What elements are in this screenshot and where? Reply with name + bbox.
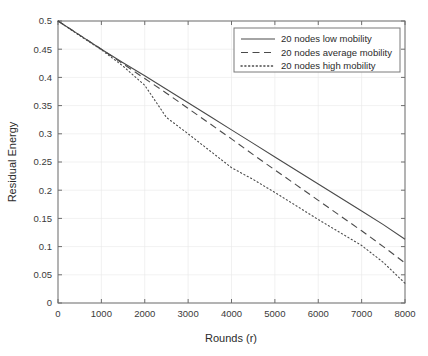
legend-label-0: 20 nodes low mobility: [281, 33, 372, 44]
x-tick-label: 2000: [134, 308, 155, 319]
x-tick-label: 5000: [264, 308, 285, 319]
y-tick-label: 0.05: [34, 269, 53, 280]
x-axis-title: Rounds (r): [205, 332, 257, 344]
x-tick-label: 4000: [221, 308, 242, 319]
y-axis-title: Residual Energy: [6, 121, 18, 202]
x-tick-label: 6000: [308, 308, 329, 319]
y-tick-label: 0.25: [34, 156, 53, 167]
x-tick-label: 0: [55, 308, 60, 319]
y-tick-label: 0.4: [39, 72, 52, 83]
y-tick-label: 0.5: [39, 15, 52, 26]
y-tick-label: 0.35: [34, 100, 53, 111]
legend-label-1: 20 nodes average mobility: [281, 47, 392, 58]
y-tick-label: 0.45: [34, 44, 53, 55]
y-tick-label: 0: [47, 297, 52, 308]
chart-legend[interactable]: 20 nodes low mobility20 nodes average mo…: [234, 28, 400, 72]
x-tick-label: 1000: [91, 308, 112, 319]
x-tick-label: 8000: [394, 308, 415, 319]
chart-figure: 00.050.10.150.20.250.30.350.40.450.5 010…: [0, 0, 428, 356]
chart-plot-area: 00.050.10.150.20.250.30.350.40.450.5 010…: [0, 0, 428, 356]
y-tick-label: 0.1: [39, 241, 52, 252]
y-tick-label: 0.2: [39, 185, 52, 196]
y-tick-label: 0.3: [39, 128, 52, 139]
legend-label-2: 20 nodes high mobility: [281, 60, 376, 71]
y-tick-label: 0.15: [34, 213, 53, 224]
x-tick-label: 7000: [351, 308, 372, 319]
x-tick-label: 3000: [178, 308, 199, 319]
